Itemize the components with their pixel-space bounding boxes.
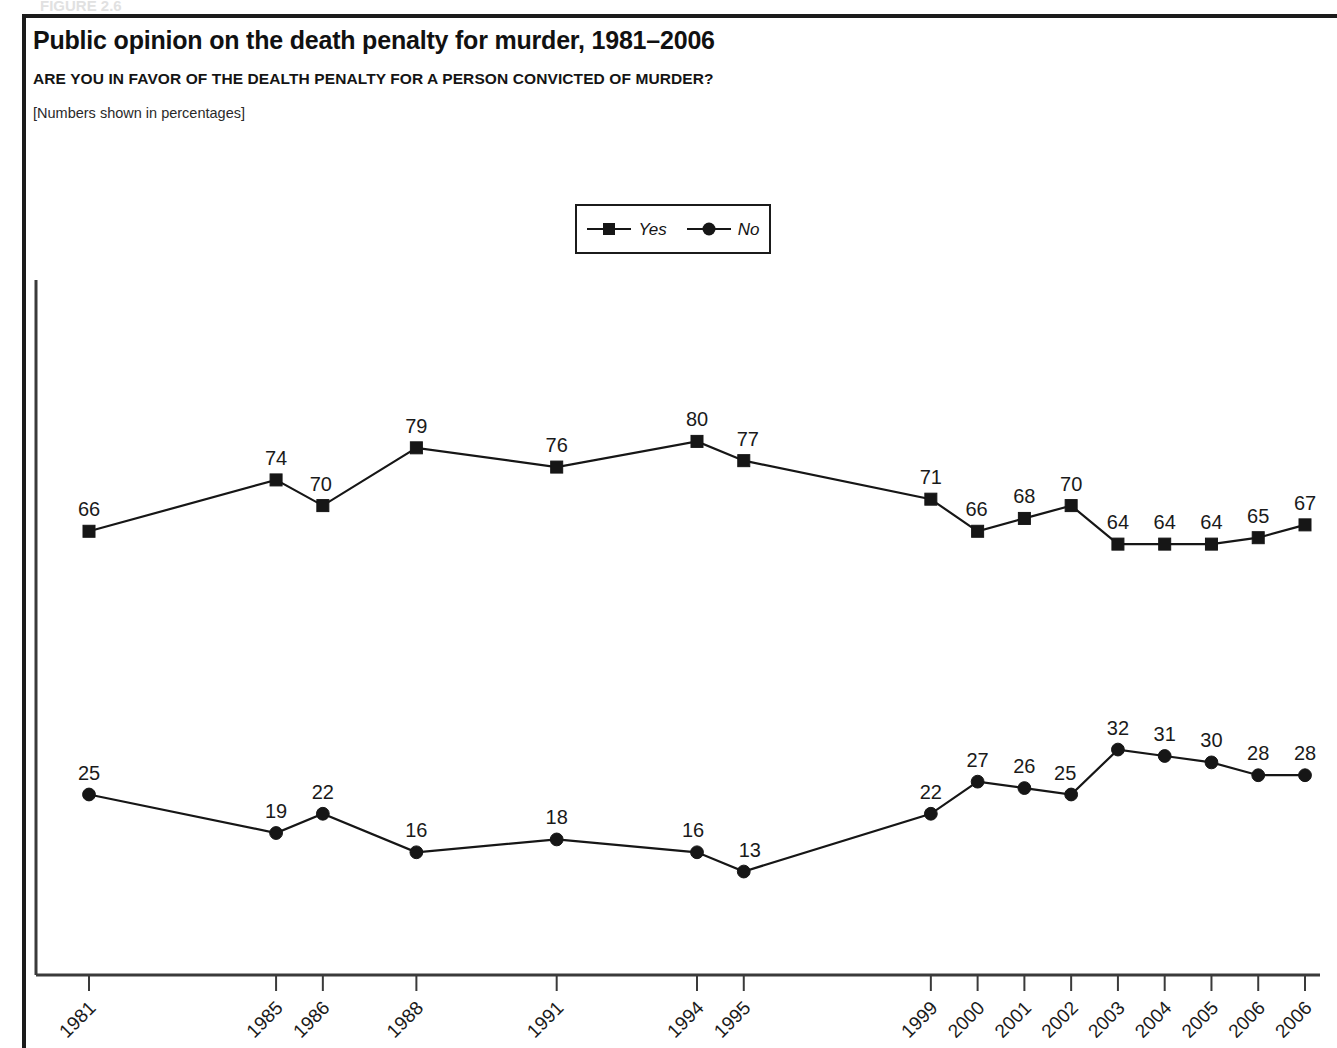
data-point-label: 67: [1294, 492, 1316, 514]
data-point-label: 68: [1013, 485, 1035, 507]
data-point-marker[interactable]: [1112, 538, 1124, 550]
data-point-label: 28: [1294, 742, 1316, 764]
x-axis-tick-label: 2003: [1084, 997, 1129, 1042]
data-point-marker[interactable]: [83, 788, 96, 801]
data-point-marker[interactable]: [925, 493, 937, 505]
data-point-marker[interactable]: [1205, 538, 1217, 550]
data-point-marker[interactable]: [316, 807, 329, 820]
x-axis-tick-label: 2005: [1178, 997, 1223, 1042]
data-point-label: 64: [1107, 511, 1129, 533]
data-point-marker[interactable]: [1065, 788, 1078, 801]
data-point-label: 25: [1054, 762, 1076, 784]
data-point-label: 22: [312, 781, 334, 803]
data-point-label: 74: [265, 447, 287, 469]
data-point-marker[interactable]: [410, 442, 422, 454]
data-point-marker[interactable]: [1159, 538, 1171, 550]
data-point-label: 70: [310, 473, 332, 495]
data-point-marker[interactable]: [1252, 769, 1265, 782]
x-axis-tick-label: 1999: [897, 997, 942, 1042]
x-axis-tick-label: 1985: [242, 997, 287, 1042]
data-point-label: 65: [1247, 505, 1269, 527]
data-point-marker[interactable]: [691, 846, 704, 859]
data-point-marker[interactable]: [737, 865, 750, 878]
x-axis-tick-label: 1981: [55, 997, 100, 1042]
axis-spines: [36, 280, 1320, 975]
data-point-marker[interactable]: [1018, 782, 1031, 795]
data-point-label: 28: [1247, 742, 1269, 764]
x-axis-tick-label: 2004: [1131, 997, 1176, 1042]
axis-ticks: [89, 975, 1305, 991]
x-axis-tick-label: 2001: [990, 997, 1035, 1042]
data-point-label: 76: [546, 434, 568, 456]
data-point-marker[interactable]: [1205, 756, 1218, 769]
data-point-marker[interactable]: [691, 435, 703, 447]
x-axis-tick-label: 2006: [1271, 997, 1316, 1042]
data-point-marker[interactable]: [738, 455, 750, 467]
data-point-label: 71: [920, 466, 942, 488]
data-point-marker[interactable]: [924, 807, 937, 820]
x-axis-tick-label: 2002: [1037, 997, 1082, 1042]
data-point-marker[interactable]: [270, 827, 283, 840]
x-axis-tick-label: 1995: [710, 997, 755, 1042]
data-point-marker[interactable]: [1018, 512, 1030, 524]
data-point-labels: 6674707976807771666870646464656725192216…: [78, 408, 1316, 860]
figure-page: FIGURE 2.6 Public opinion on the death p…: [0, 0, 1337, 1048]
data-point-label: 70: [1060, 473, 1082, 495]
data-point-label: 26: [1013, 755, 1035, 777]
x-axis-tick-label: 2000: [944, 997, 989, 1042]
data-point-marker[interactable]: [83, 525, 95, 537]
data-point-marker[interactable]: [1112, 743, 1125, 756]
x-axis-tick-label: 2006: [1224, 997, 1269, 1042]
data-point-marker[interactable]: [317, 500, 329, 512]
chart-plot-area: 1981198519861988199119941995199920002001…: [0, 0, 1337, 1048]
data-point-marker[interactable]: [551, 461, 563, 473]
data-point-marker[interactable]: [410, 846, 423, 859]
x-axis-tick-label: 1986: [289, 997, 334, 1042]
data-point-label: 25: [78, 762, 100, 784]
data-point-marker[interactable]: [972, 525, 984, 537]
data-point-label: 64: [1200, 511, 1222, 533]
data-point-label: 79: [405, 415, 427, 437]
data-point-marker[interactable]: [270, 474, 282, 486]
data-point-label: 77: [737, 428, 759, 450]
data-point-label: 80: [686, 408, 708, 430]
data-point-marker[interactable]: [1252, 532, 1264, 544]
data-point-label: 19: [265, 800, 287, 822]
data-point-marker[interactable]: [550, 833, 563, 846]
data-point-label: 16: [682, 819, 704, 841]
data-point-label: 18: [546, 806, 568, 828]
data-point-label: 27: [966, 749, 988, 771]
data-point-label: 22: [920, 781, 942, 803]
data-point-label: 31: [1154, 723, 1176, 745]
data-point-label: 32: [1107, 717, 1129, 739]
data-point-label: 30: [1200, 729, 1222, 751]
data-point-label: 13: [739, 839, 761, 861]
data-point-marker[interactable]: [1299, 769, 1312, 782]
data-point-marker[interactable]: [1065, 500, 1077, 512]
data-point-label: 16: [405, 819, 427, 841]
data-point-label: 66: [965, 498, 987, 520]
data-point-label: 66: [78, 498, 100, 520]
x-axis-tick-label: 1988: [382, 997, 427, 1042]
data-point-marker[interactable]: [1158, 750, 1171, 763]
x-axis-tick-label: 1991: [523, 997, 568, 1042]
x-axis-tick-labels: 1981198519861988199119941995199920002001…: [55, 997, 1316, 1042]
x-axis-tick-label: 1994: [663, 997, 708, 1042]
data-point-marker[interactable]: [971, 775, 984, 788]
data-point-label: 64: [1154, 511, 1176, 533]
data-point-marker[interactable]: [1299, 519, 1311, 531]
line-chart-svg: 1981198519861988199119941995199920002001…: [0, 0, 1337, 1048]
